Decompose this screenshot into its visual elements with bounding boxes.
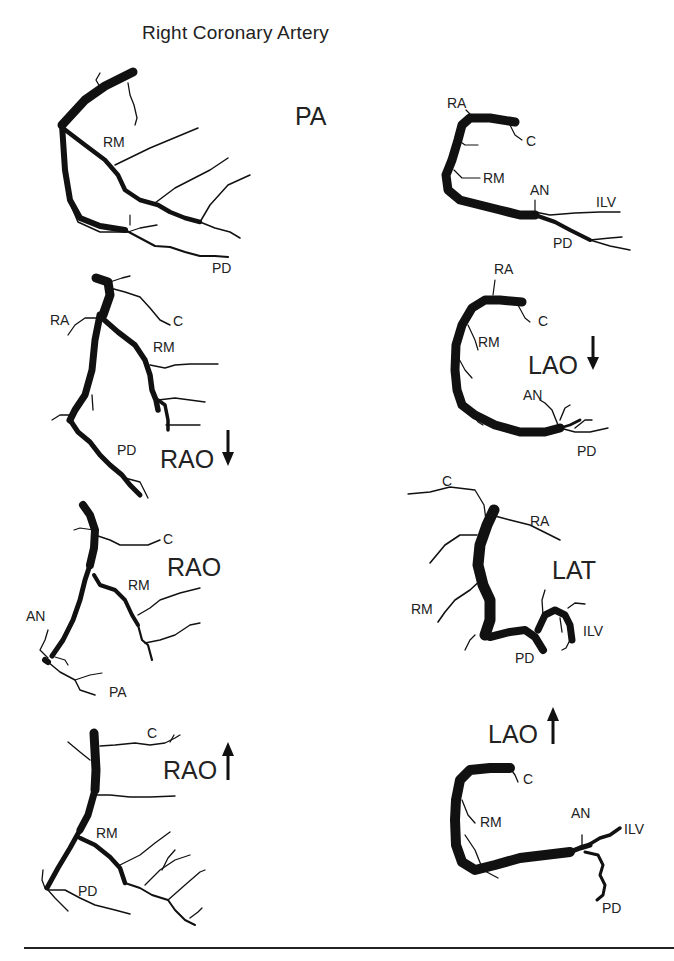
- panel-rao-caudal: RA C RM PD RAO: [50, 276, 234, 498]
- label-an: AN: [523, 387, 542, 403]
- arrow-up-icon: [222, 742, 234, 780]
- label-ra: RA: [530, 513, 550, 529]
- label-ra: RA: [447, 95, 467, 111]
- label-an: AN: [571, 805, 590, 821]
- view-label-rao-caudal: RAO: [160, 445, 214, 473]
- panel-lao-caudal: RA C RM AN PD LAO: [455, 261, 608, 459]
- label-pd: PD: [78, 883, 97, 899]
- label-pa: PA: [109, 684, 127, 700]
- label-c: C: [163, 531, 173, 547]
- view-label-lao-caudal: LAO: [528, 351, 578, 379]
- label-pd: PD: [602, 900, 621, 916]
- label-ra: RA: [494, 261, 514, 277]
- view-label-lao-cranial: LAO: [488, 720, 538, 748]
- panel-lat: C RA RM ILV PD LAT: [408, 473, 604, 666]
- label-pd: PD: [212, 260, 231, 276]
- arrow-up-icon: [547, 707, 559, 744]
- panel-rao-cranial: C RM PD RAO: [42, 725, 234, 925]
- view-label-rao: RAO: [167, 553, 221, 581]
- label-rm: RM: [103, 134, 125, 150]
- label-rm: RM: [483, 170, 505, 186]
- label-c: C: [526, 133, 536, 149]
- label-c: C: [523, 771, 533, 787]
- label-an: AN: [530, 182, 549, 198]
- panel-top-right: RA C RM AN ILV PD: [446, 95, 630, 251]
- label-rm: RM: [411, 601, 433, 617]
- panel-lao-cranial: C RM AN ILV PD LAO: [455, 707, 645, 916]
- view-label-rao-cranial: RAO: [163, 756, 217, 784]
- panel-pa: RM PD PA: [62, 72, 327, 276]
- arrow-down-icon: [587, 336, 599, 370]
- label-c: C: [173, 313, 183, 329]
- coronary-diagram-canvas: RM PD PA RA C RM AN ILV PD: [0, 0, 674, 961]
- label-pd: PD: [577, 443, 596, 459]
- label-ra: RA: [50, 312, 70, 328]
- label-rm: RM: [153, 339, 175, 355]
- view-label-lat: LAT: [552, 556, 596, 584]
- label-ilv: ILV: [583, 623, 604, 639]
- label-c: C: [147, 725, 157, 741]
- arrow-down-icon: [222, 430, 234, 466]
- label-rm: RM: [128, 577, 150, 593]
- label-pd: PD: [117, 442, 136, 458]
- label-an: AN: [26, 608, 45, 624]
- label-c: C: [442, 473, 452, 489]
- label-rm: RM: [480, 814, 502, 830]
- label-pd: PD: [553, 235, 572, 251]
- label-pd: PD: [515, 650, 534, 666]
- panel-rao: C RM AN PA RAO: [26, 505, 221, 700]
- bottom-divider: [24, 947, 674, 949]
- label-rm: RM: [478, 334, 500, 350]
- label-ilv: ILV: [596, 194, 617, 210]
- label-rm: RM: [96, 825, 118, 841]
- label-c: C: [538, 313, 548, 329]
- label-ilv: ILV: [624, 821, 645, 837]
- view-label-pa: PA: [295, 102, 327, 130]
